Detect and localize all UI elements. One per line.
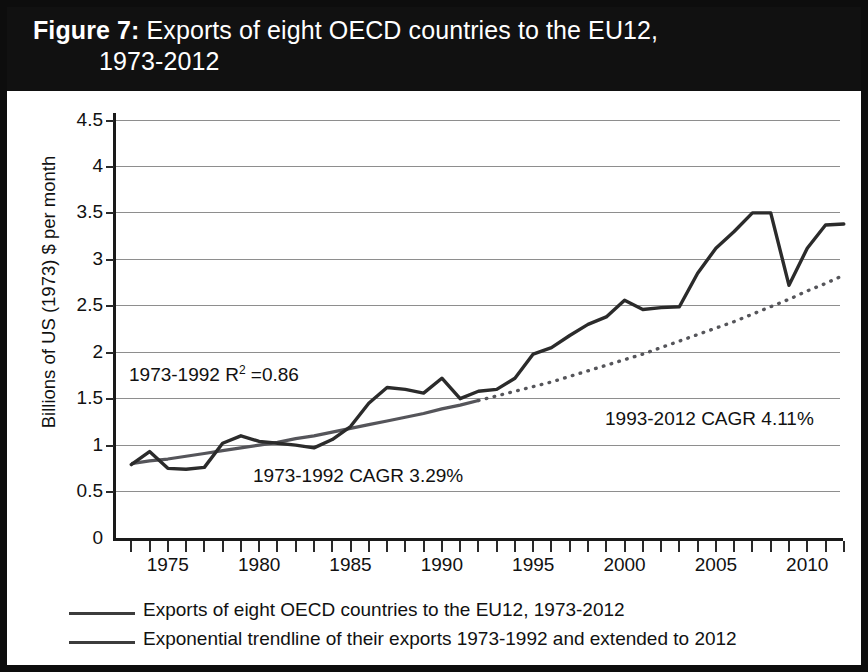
figure-title-band: Figure 7: Exports of eight OECD countrie… <box>7 7 861 91</box>
figure-container: Figure 7: Exports of eight OECD countrie… <box>0 0 868 672</box>
annotation-cagr-late: 1993-2012 CAGR 4.11% <box>605 408 814 430</box>
trendline-dotted-segment <box>478 275 843 400</box>
chart-legend: Exports of eight OECD countries to the E… <box>7 599 861 665</box>
annotation-r-squared: 1973-1992 R2 =0.86 <box>129 363 299 386</box>
annotation-r-squared-prefix: 1973-1992 R <box>129 364 239 385</box>
legend-swatch-trendline-icon <box>69 641 135 644</box>
trendline-solid-segment <box>131 401 478 464</box>
figure-label: Figure 7: <box>33 16 139 44</box>
annotation-r-squared-exponent: 2 <box>239 363 246 377</box>
legend-label-trendline: Exponential trendline of their exports 1… <box>143 628 737 650</box>
page-title: Figure 7: Exports of eight OECD countrie… <box>33 15 841 77</box>
legend-swatch-exports-icon <box>69 612 135 615</box>
figure-title-line1: Exports of eight OECD countries to the E… <box>147 16 659 44</box>
legend-label-exports: Exports of eight OECD countries to the E… <box>143 599 625 621</box>
figure-title-line2: 1973-2012 <box>33 46 841 77</box>
legend-item-exports: Exports of eight OECD countries to the E… <box>7 599 861 628</box>
chart-plot-area: Billions of US (1973) $ per month 4.5 4 … <box>7 91 861 665</box>
annotation-r-squared-suffix: =0.86 <box>246 364 299 385</box>
exports-series-line <box>131 213 844 469</box>
annotation-cagr-early: 1973-1992 CAGR 3.29% <box>253 465 463 487</box>
legend-item-trendline: Exponential trendline of their exports 1… <box>7 628 861 657</box>
